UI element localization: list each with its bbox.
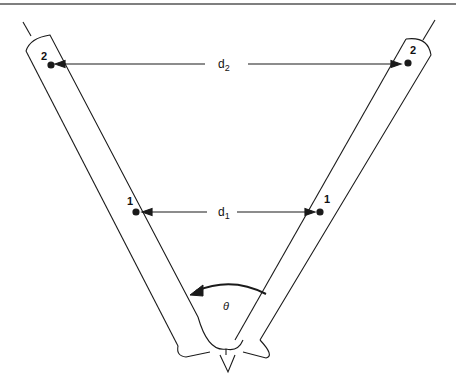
d2-sub: 2 [225, 63, 230, 73]
d1-main: d [218, 205, 225, 219]
right-arm [235, 20, 435, 340]
label-distance-d1: d1 [218, 205, 230, 221]
point-1-left-dot [133, 209, 139, 215]
point-1-right-dot [317, 209, 323, 215]
joint [178, 317, 270, 372]
angle-arc [190, 284, 266, 296]
label-point-2-left: 2 [41, 50, 47, 62]
label-distance-d2: d2 [218, 57, 230, 73]
label-point-1-right: 1 [324, 193, 330, 205]
d1-sub: 1 [225, 211, 230, 221]
label-angle-theta: θ [223, 300, 229, 312]
point-2-left-dot [48, 62, 54, 68]
left-arm [23, 22, 198, 346]
d2-main: d [218, 57, 225, 71]
point-2-right-dot [405, 60, 411, 66]
diagram-canvas: 2 2 1 1 d2 d1 θ [0, 0, 456, 390]
label-point-1-left: 1 [127, 195, 133, 207]
label-point-2-right: 2 [410, 44, 416, 56]
